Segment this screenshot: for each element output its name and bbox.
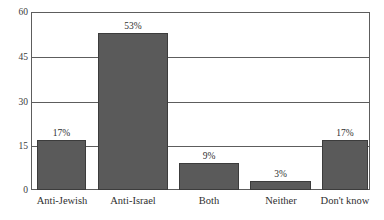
bar-value-anti-israel: 53% (98, 21, 168, 32)
bar-value-neither: 3% (250, 169, 311, 180)
x-label-neither: Neither (246, 194, 316, 208)
y-tick-label-45: 45 (4, 52, 28, 62)
bar-value-anti-jewish: 17% (37, 128, 86, 139)
bar-chart: 60 45 30 15 0 17% 53% 9% 3% 17% Anti-Jew… (0, 0, 384, 220)
bar-neither[interactable] (250, 181, 311, 190)
bars-layer: 17% 53% 9% 3% 17% (31, 12, 370, 190)
x-label-anti-israel: Anti-Israel (98, 194, 168, 208)
y-tick-label-30: 30 (4, 97, 28, 107)
x-label-anti-jewish: Anti-Jewish (27, 194, 97, 208)
bar-both[interactable] (179, 163, 239, 190)
bar-value-both: 9% (179, 151, 239, 162)
x-axis-labels: Anti-Jewish Anti-Israel Both Neither Don… (31, 194, 370, 216)
y-tick-label-0: 0 (4, 185, 28, 195)
bar-dont-know[interactable] (322, 140, 368, 190)
bar-anti-israel[interactable] (98, 33, 168, 190)
bar-anti-jewish[interactable] (37, 140, 86, 190)
y-tick-label-15: 15 (4, 141, 28, 151)
x-label-dont-know: Don't know (315, 194, 375, 208)
bar-value-dont-know: 17% (322, 128, 368, 139)
x-label-both: Both (179, 194, 239, 208)
y-tick-label-60: 60 (4, 7, 28, 17)
